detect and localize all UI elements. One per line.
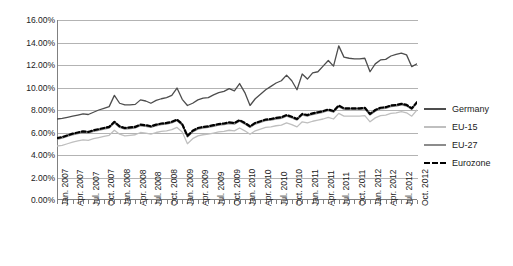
x-axis-tick <box>182 200 183 204</box>
y-axis-tick-label: 6.00% <box>3 129 55 138</box>
legend-label-germany: Germany <box>452 104 489 114</box>
legend-item-eu-15[interactable]: EU-15 <box>424 118 513 136</box>
x-axis-tick-label: Jul. 2012 <box>405 172 414 207</box>
y-axis-tick-label: 12.00% <box>3 61 55 70</box>
x-axis-tick-label: Jul. 2008 <box>154 172 163 207</box>
x-axis-tick-label: Apr. 2012 <box>389 170 398 206</box>
x-axis-tick <box>198 200 199 204</box>
x-axis: Jan. 2007Apr. 2007Jul. 2007Oct. 2007Jan.… <box>57 200 417 266</box>
legend-item-eu-27[interactable]: EU-27 <box>424 136 513 154</box>
x-axis-tick <box>104 200 105 204</box>
x-axis-tick-label: Oct. 2012 <box>421 169 430 206</box>
x-axis-tick <box>151 200 152 204</box>
x-axis-tick <box>292 200 293 204</box>
chart-container: 16.00%14.00%12.00%10.00%8.00%6.00%4.00%2… <box>0 0 513 266</box>
x-axis-tick-label: Oct. 2011 <box>358 170 367 206</box>
x-axis-tick-label: Oct. 2007 <box>107 169 116 206</box>
legend-item-germany[interactable]: Germany <box>424 100 513 118</box>
legend-swatch-eu-15 <box>424 126 446 128</box>
y-axis-tick-label: 2.00% <box>3 174 55 183</box>
x-axis-tick <box>73 200 74 204</box>
x-axis-tick <box>354 200 355 204</box>
x-axis-tick <box>276 200 277 204</box>
y-axis-tick-label: 0.00% <box>3 196 55 205</box>
x-axis-tick-label: Jul. 2009 <box>217 172 226 207</box>
legend-label-eurozone: Eurozone <box>452 158 491 168</box>
y-axis-tick-label: 16.00% <box>3 16 55 25</box>
x-axis-tick-label: Jan. 2008 <box>123 169 132 206</box>
x-axis-tick <box>417 200 418 204</box>
x-axis-tick-label: Jan. 2010 <box>248 169 257 206</box>
legend-swatch-eu-27 <box>424 144 446 146</box>
y-axis-tick-label: 10.00% <box>3 84 55 93</box>
x-axis-tick-label: Apr. 2007 <box>76 170 85 206</box>
x-axis-tick <box>88 200 89 204</box>
x-axis-tick <box>386 200 387 204</box>
x-axis-tick <box>229 200 230 204</box>
x-axis-tick <box>214 200 215 204</box>
x-axis-tick-label: Apr. 2011 <box>327 170 336 206</box>
x-axis-tick <box>120 200 121 204</box>
x-axis-tick <box>401 200 402 204</box>
x-axis-tick <box>167 200 168 204</box>
chart-legend: Germany EU-15 EU-27 Eurozone <box>424 100 513 172</box>
legend-swatch-germany <box>424 108 446 110</box>
legend-label-eu-15: EU-15 <box>452 122 478 132</box>
x-axis-tick <box>307 200 308 204</box>
x-axis-tick-label: Oct. 2009 <box>233 169 242 206</box>
x-axis-tick-label: Jan. 2007 <box>61 169 70 206</box>
x-axis-tick <box>323 200 324 204</box>
series-line-eu-15 <box>57 110 417 146</box>
legend-swatch-eurozone <box>424 162 446 164</box>
x-axis-tick-label: Jul. 2010 <box>280 172 289 207</box>
x-axis-tick <box>135 200 136 204</box>
legend-label-eu-27: EU-27 <box>452 140 478 150</box>
x-axis-tick-label: Apr. 2008 <box>139 170 148 206</box>
x-axis-tick-label: Apr. 2009 <box>201 170 210 206</box>
y-axis-tick-label: 8.00% <box>3 106 55 115</box>
x-axis-tick <box>370 200 371 204</box>
x-axis-tick <box>57 200 58 204</box>
x-axis-tick-label: Oct. 2008 <box>170 169 179 206</box>
x-axis-tick-label: Jan. 2009 <box>186 169 195 206</box>
y-axis: 16.00%14.00%12.00%10.00%8.00%6.00%4.00%2… <box>0 0 55 266</box>
y-axis-tick-label: 4.00% <box>3 151 55 160</box>
x-axis-tick <box>245 200 246 204</box>
y-axis-tick-label: 14.00% <box>3 39 55 48</box>
x-axis-tick-label: Oct. 2010 <box>295 169 304 206</box>
legend-item-eurozone[interactable]: Eurozone <box>424 154 513 172</box>
x-axis-tick <box>260 200 261 204</box>
x-axis-tick <box>339 200 340 204</box>
x-axis-tick-label: Jul. 2007 <box>92 172 101 207</box>
x-axis-tick-label: Jan. 2011 <box>311 169 320 206</box>
x-axis-tick-label: Jan. 2012 <box>374 169 383 206</box>
x-axis-tick-label: Apr. 2010 <box>264 170 273 206</box>
x-axis-tick-label: Jul. 2011 <box>342 172 351 206</box>
